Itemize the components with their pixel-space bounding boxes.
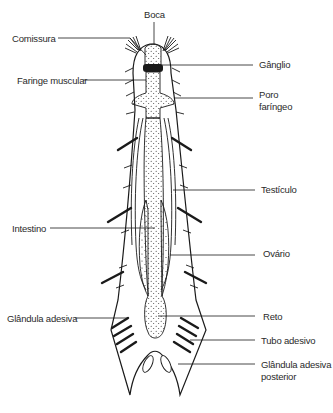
label-faringe-muscular: Faringe muscular — [17, 75, 87, 86]
label-ganglio: Gânglio — [259, 59, 290, 70]
label-comissura: Comissura — [12, 33, 56, 44]
label-boca: Boca — [144, 9, 165, 20]
label-reto: Reto — [263, 311, 282, 322]
label-intestino: Intestino — [12, 223, 46, 234]
label-tubo-adesivo: Tubo adesivo — [261, 335, 315, 346]
ganglion — [143, 64, 163, 72]
label-poro-faringeo-1: Poro — [259, 89, 278, 100]
label-glandula-adesiva: Glândula adesiva — [7, 313, 77, 324]
label-glandula-adesiva-posterior-1: Glândula adesiva — [261, 359, 331, 370]
label-poro-faringeo-2: faríngeo — [259, 101, 292, 112]
label-ovario: Ovário — [263, 248, 290, 259]
label-testiculo: Testículo — [261, 184, 297, 195]
label-glandula-adesiva-posterior-2: posterior — [261, 371, 296, 382]
